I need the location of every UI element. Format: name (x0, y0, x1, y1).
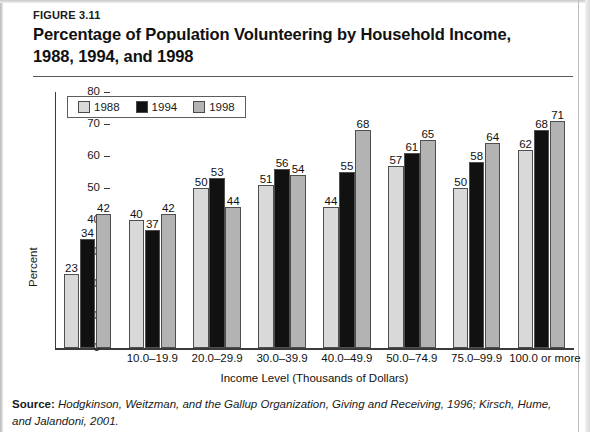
title-divider (33, 76, 573, 77)
legend-item-1988: 1988 (78, 101, 120, 113)
bar-group-4: 445568 (323, 92, 371, 348)
page-edge-left (0, 0, 3, 432)
bar-value-label: 44 (325, 195, 338, 207)
bar-value-label: 34 (81, 227, 94, 239)
bar-group-6: 505864 (453, 92, 501, 348)
bar-1994-1: 37 (145, 230, 161, 348)
x-category-label-2: 20.0–29.9 (185, 352, 250, 364)
bar-value-label: 42 (162, 202, 175, 214)
bar-group-3: 515654 (258, 92, 306, 348)
bar-value-label: 40 (130, 208, 143, 220)
page-edge-right-shadow (585, 0, 590, 432)
bar-value-label: 68 (535, 118, 548, 130)
bar-group-1: 403742 (129, 92, 177, 348)
bar-1994-3: 56 (274, 169, 290, 348)
page-edge-right (578, 0, 579, 432)
x-category-label-3: 30.0–39.9 (250, 352, 315, 364)
legend-item-1998: 1998 (193, 101, 235, 113)
bar-1994-6: 58 (469, 162, 485, 348)
x-category-label-6: 75.0–99.9 (444, 352, 509, 364)
bar-value-label: 53 (211, 166, 224, 178)
bar-1988-2: 50 (193, 188, 209, 348)
bar-value-label: 50 (454, 176, 467, 188)
chart-legend: 198819941998 (67, 96, 246, 118)
bar-1994-0: 34 (80, 239, 96, 348)
bar-1988-5: 57 (388, 166, 404, 348)
x-category-label-5: 50.0–74.9 (379, 352, 444, 364)
bar-value-label: 42 (97, 202, 110, 214)
figure-number: FIGURE 3.11 (33, 9, 101, 21)
legend-label: 1988 (94, 101, 120, 113)
y-tick-0: 0 (104, 348, 110, 349)
bar-group-7: 626871 (518, 92, 566, 348)
bar-value-label: 44 (227, 195, 240, 207)
bar-1988-4: 44 (323, 207, 339, 348)
bar-value-label: 71 (551, 109, 564, 121)
bar-value-label: 65 (421, 128, 434, 140)
bar-1988-3: 51 (258, 185, 274, 348)
x-category-label-4: 40.0–49.9 (315, 352, 380, 364)
bar-group-2: 505344 (193, 92, 241, 348)
bar-1998-5: 65 (420, 140, 436, 348)
legend-label: 1994 (152, 101, 178, 113)
legend-swatch-icon-1998 (193, 101, 205, 113)
legend-swatch-icon-1988 (78, 101, 90, 113)
legend-swatch-icon-1994 (136, 101, 148, 113)
bar-1998-4: 68 (355, 130, 371, 348)
x-category-label-7: 100.0 or more (509, 352, 574, 364)
bar-value-label: 37 (146, 218, 159, 230)
bar-value-label: 56 (276, 157, 289, 169)
y-axis-label: Percent (27, 247, 39, 287)
bar-1988-1: 40 (129, 220, 145, 348)
bar-1998-1: 42 (161, 214, 177, 348)
bar-value-label: 54 (292, 163, 305, 175)
bar-value-label: 57 (389, 154, 402, 166)
bar-value-label: 68 (357, 118, 370, 130)
bar-1994-4: 55 (339, 172, 355, 348)
bar-value-label: 62 (519, 138, 532, 150)
bar-value-label: 51 (260, 173, 273, 185)
bar-value-label: 58 (470, 150, 483, 162)
bar-1994-5: 61 (404, 153, 420, 348)
bar-1994-2: 53 (209, 178, 225, 348)
bar-1998-3: 54 (290, 175, 306, 348)
legend-label: 1998 (209, 101, 235, 113)
x-axis-label-wrap: Income Level (Thousands of Dollars) (55, 0, 574, 1)
x-axis-label: Income Level (Thousands of Dollars) (55, 372, 574, 384)
bar-1988-6: 50 (453, 188, 469, 348)
bar-groups: 2334424037425053445156544455685761655058… (55, 92, 574, 348)
bar-value-label: 50 (195, 176, 208, 188)
source-continued: and Jalandoni, 2001. (12, 415, 119, 427)
source-work: Giving and Receiving, (329, 398, 444, 410)
source-note: Source: Hodgkinson, Weitzman, and the Ga… (12, 396, 567, 429)
bar-value-label: 61 (405, 141, 418, 153)
bar-group-5: 576165 (388, 92, 436, 348)
bar-group-0: 233442 (64, 92, 112, 348)
bar-1998-6: 64 (485, 143, 501, 348)
bar-1994-7: 68 (534, 130, 550, 348)
figure-title: Percentage of Population Volunteering by… (33, 24, 553, 68)
x-axis-line (55, 348, 574, 350)
source-authors: Hodgkinson, Weitzman, and the Gallup Org… (55, 398, 329, 410)
legend-item-1994: 1994 (136, 101, 178, 113)
source-year-and-more: 1996; Kirsch, Hume, (444, 398, 551, 410)
figure-page: FIGURE 3.11 Percentage of Population Vol… (0, 0, 590, 432)
source-label: Source: (12, 398, 55, 410)
bar-1998-2: 44 (225, 207, 241, 348)
x-category-label-1: 10.0–19.9 (120, 352, 185, 364)
bar-value-label: 64 (486, 131, 499, 143)
bar-value-label: 23 (65, 262, 78, 274)
bar-1998-0: 42 (96, 214, 112, 348)
bar-value-label: 55 (341, 160, 354, 172)
bar-1988-7: 62 (518, 150, 534, 348)
bar-1988-0: 23 (64, 274, 80, 348)
bar-1998-7: 71 (550, 121, 566, 348)
